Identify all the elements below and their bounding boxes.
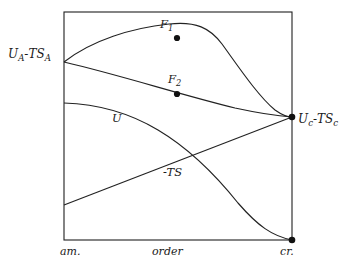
x-tick-label-cr: cr.: [280, 246, 294, 257]
data-point-corner: [289, 237, 296, 244]
curve-label-f1-sub: 1: [168, 23, 173, 33]
right-label-ts: TS: [317, 112, 333, 126]
curve-label-f2-text: F: [168, 72, 176, 86]
curve-label-f1: F1: [160, 19, 173, 32]
left-label-ts: TS: [28, 47, 44, 61]
right-endpoint-label: Uc-TSc: [298, 113, 338, 127]
x-tick-label-order: order: [152, 246, 183, 257]
curve-label-f1-text: F: [160, 17, 168, 31]
data-point-f2: [174, 91, 180, 97]
curve-label-minus-ts: -TS: [163, 167, 182, 179]
curve-label-u: U: [112, 113, 122, 125]
data-point-convergence: [289, 114, 296, 121]
left-label-ts-sub: A: [45, 53, 51, 63]
curve-label-f2-sub: 2: [176, 78, 181, 88]
left-endpoint-label: UA-TSA: [8, 48, 51, 62]
plot-frame: [64, 12, 292, 240]
curve-label-f2: F2: [168, 74, 181, 87]
right-label-u: U: [298, 112, 308, 126]
curve-f2: [64, 62, 292, 117]
figure-canvas: UA-TSA Uc-TSc F1 F2 U -TS am. order cr.: [0, 0, 350, 268]
right-label-ts-sub: c: [333, 118, 338, 128]
curve-minus-ts: [64, 117, 292, 205]
plot-area: [0, 0, 350, 268]
data-point-f1: [174, 35, 180, 41]
left-label-u: U: [8, 47, 18, 61]
x-tick-label-am: am.: [60, 246, 81, 257]
